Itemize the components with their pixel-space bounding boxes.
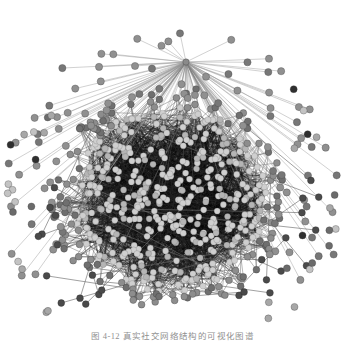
network-graph-canvas [0, 0, 345, 330]
figure-caption: 图 4-12 真实社交网络结构的可视化图谱 [0, 331, 345, 342]
figure-container: 图 4-12 真实社交网络结构的可视化图谱 [0, 0, 345, 343]
